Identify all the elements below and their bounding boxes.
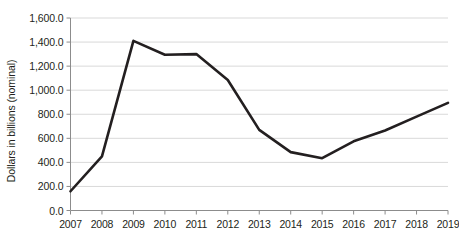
y-tick-label: 400.0 <box>38 156 64 168</box>
y-tick-marks <box>67 18 71 211</box>
y-tick-label: 0.0 <box>49 205 63 217</box>
x-tick-label: 2009 <box>122 218 145 230</box>
y-tick-label: 1,600.0 <box>29 12 63 24</box>
y-tick-label: 1,400.0 <box>29 36 63 48</box>
y-tick-label: 1,200.0 <box>29 60 63 72</box>
data-series-line <box>71 41 449 191</box>
x-tick-label: 2019 <box>437 218 459 230</box>
x-tick-label: 2017 <box>374 218 397 230</box>
x-tick-label: 2016 <box>342 218 365 230</box>
x-tick-label: 2008 <box>91 218 114 230</box>
x-tick-label: 2018 <box>405 218 428 230</box>
x-tick-label: 2010 <box>154 218 177 230</box>
x-tick-label: 2011 <box>185 218 207 230</box>
x-tick-label: 2015 <box>311 218 334 230</box>
y-tick-label: 200.0 <box>38 180 64 192</box>
y-tick-label: 1,000.0 <box>29 84 63 96</box>
y-tick-label: 600.0 <box>38 132 64 144</box>
x-tick-marks <box>71 211 449 215</box>
x-tick-label: 2014 <box>279 218 302 230</box>
x-tick-label: 2013 <box>248 218 271 230</box>
gridlines <box>71 18 449 186</box>
x-tick-label: 2007 <box>59 218 82 230</box>
y-tick-label: 800.0 <box>38 108 64 120</box>
x-tick-label: 2012 <box>217 218 240 230</box>
